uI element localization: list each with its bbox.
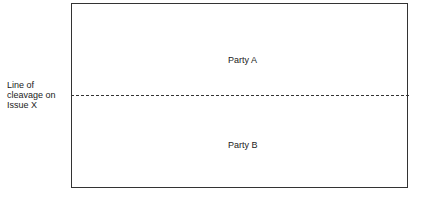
cleavage-label-line-1: Line of: [7, 80, 56, 90]
cleavage-line: [71, 95, 409, 96]
party-b-label: Party B: [228, 140, 258, 150]
party-a-label: Party A: [228, 55, 257, 65]
cleavage-line-label: Line of cleavage on Issue X: [7, 80, 56, 110]
cleavage-label-line-2: cleavage on: [7, 90, 56, 100]
cleavage-label-line-3: Issue X: [7, 100, 56, 110]
